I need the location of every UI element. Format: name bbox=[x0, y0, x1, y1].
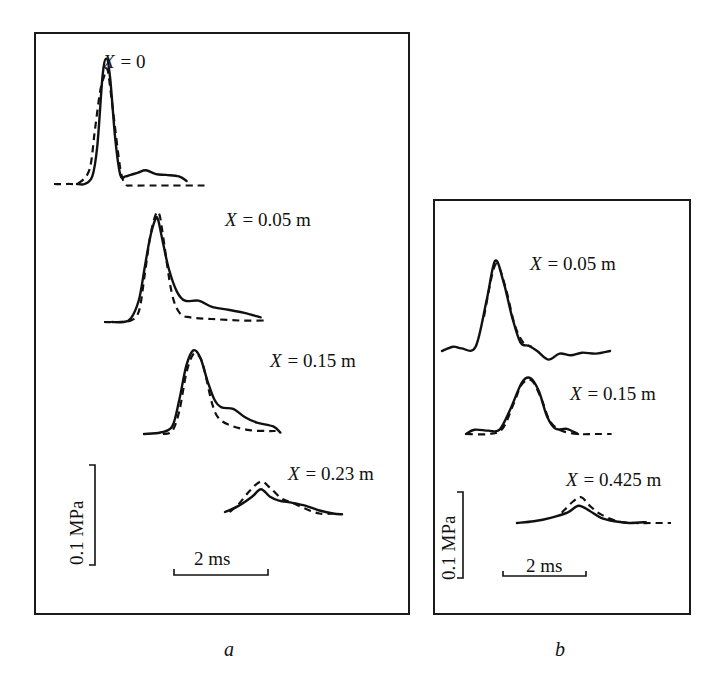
panel-label-b: b bbox=[555, 638, 565, 660]
pressure-scale-label-a: 0.1 MPa bbox=[66, 500, 87, 565]
trace-label-a-3: X= 0.23 m bbox=[287, 463, 374, 484]
trace-var: X bbox=[565, 469, 579, 490]
trace-value: = 0.23 m bbox=[306, 463, 374, 484]
trace-label-a-2: X= 0.15 m bbox=[269, 350, 356, 371]
trace-label-a-1: X= 0.05 m bbox=[224, 209, 311, 230]
trace-value: = 0.425 m bbox=[584, 469, 662, 490]
trace-var: X bbox=[287, 463, 301, 484]
trace-label-b-2: X= 0.425 m bbox=[565, 469, 662, 490]
trace-solid-panel-b-0 bbox=[442, 260, 610, 359]
panel-a-frame bbox=[35, 33, 409, 614]
pressure-scale-bar-a bbox=[89, 465, 95, 565]
trace-dashed-panel-b-0 bbox=[484, 264, 532, 347]
curves-layer bbox=[54, 59, 671, 524]
trace-solid-panel-a-1 bbox=[112, 217, 261, 322]
time-scale-label-a: 2 ms bbox=[194, 548, 230, 569]
trace-var: X bbox=[269, 350, 283, 371]
trace-dashed-panel-b-2 bbox=[562, 497, 671, 523]
trace-solid-panel-a-0 bbox=[77, 59, 187, 185]
trace-dashed-panel-a-0 bbox=[54, 68, 205, 185]
trace-var: X bbox=[224, 209, 238, 230]
trace-label-b-1: X= 0.15 m bbox=[569, 383, 656, 404]
pressure-scale-label-b: 0.1 MPa bbox=[438, 515, 459, 580]
trace-value: = 0.15 m bbox=[288, 350, 356, 371]
trace-value: = 0.05 m bbox=[243, 209, 311, 230]
trace-value: = 0.05 m bbox=[548, 253, 616, 274]
time-scale-bar-a bbox=[174, 569, 268, 575]
trace-value: = 0.15 m bbox=[588, 383, 656, 404]
trace-value: = 0 bbox=[121, 51, 146, 72]
trace-var: X bbox=[569, 383, 583, 404]
time-scale-label-b: 2 ms bbox=[526, 555, 562, 576]
figure: a b X= 0 X= 0.05 m X= 0.15 m X= 0.23 m X… bbox=[0, 0, 725, 681]
panel-label-a: a bbox=[224, 638, 234, 660]
trace-solid-panel-a-3 bbox=[225, 489, 342, 514]
trace-var: X bbox=[529, 253, 543, 274]
trace-solid-panel-b-2 bbox=[517, 506, 646, 523]
trace-label-b-0: X= 0.05 m bbox=[529, 253, 616, 274]
trace-solid-panel-a-2 bbox=[144, 350, 280, 434]
